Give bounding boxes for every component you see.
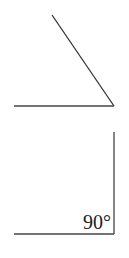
angles-diagram: 90° — [0, 0, 129, 258]
acute-angle-slanted-ray — [52, 15, 114, 106]
right-angle-label: 90° — [83, 211, 111, 233]
right-angle-figure: 90° — [14, 132, 114, 234]
acute-angle-figure — [14, 15, 114, 106]
